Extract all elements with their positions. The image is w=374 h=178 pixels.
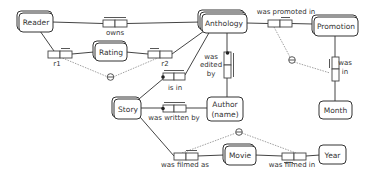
svg-text:by: by (207, 70, 216, 78)
svg-text:Month: Month (324, 106, 348, 115)
entity-rating[interactable]: Rating (93, 41, 127, 61)
svg-text:in: in (342, 68, 348, 76)
role-owns[interactable]: owns (103, 18, 127, 38)
svg-text:was: was (204, 53, 218, 61)
svg-text:Year: Year (324, 151, 342, 160)
svg-text:was written by: was written by (148, 114, 199, 122)
entity-author[interactable]: Author (name) (207, 97, 243, 121)
entity-month[interactable]: Month (319, 101, 352, 119)
svg-text:Rating: Rating (99, 48, 123, 57)
role-r1[interactable]: r1 (48, 49, 72, 69)
svg-text:Author: Author (212, 100, 238, 109)
connectors (40, 22, 335, 156)
svg-text:Promotion: Promotion (317, 22, 355, 31)
svg-text:was filmed as: was filmed as (161, 161, 209, 169)
svg-text:r1: r1 (53, 60, 60, 68)
role-is-in[interactable]: is in (161, 71, 185, 93)
entity-anthology[interactable]: Anthology (198, 10, 247, 33)
svg-text:(name): (name) (211, 110, 238, 119)
svg-text:r2: r2 (161, 60, 168, 68)
role-was-edited-by[interactable]: was edited by (200, 51, 234, 78)
svg-text:Reader: Reader (23, 18, 50, 27)
svg-text:owns: owns (106, 29, 124, 37)
svg-text:was: was (338, 59, 352, 67)
role-was-in[interactable]: was in (330, 57, 353, 81)
orm-diagram: Reader Rating Anthology Promotion Month … (0, 0, 374, 178)
entity-story[interactable]: Story (112, 97, 141, 119)
svg-text:Story: Story (118, 105, 138, 114)
role-was-written-by[interactable]: was written by (148, 103, 199, 123)
svg-text:was promoted in: was promoted in (257, 8, 316, 16)
role-r2[interactable]: r2 (148, 49, 172, 69)
role-was-filmed-as[interactable]: was filmed as (161, 151, 209, 170)
entity-reader[interactable]: Reader (17, 11, 53, 32)
svg-text:was filmed in: was filmed in (269, 161, 315, 169)
entity-year[interactable]: Year (319, 145, 346, 164)
svg-text:Movie: Movie (229, 151, 252, 160)
svg-text:Anthology: Anthology (205, 19, 244, 28)
svg-text:edited: edited (200, 61, 222, 69)
svg-text:is in: is in (168, 84, 182, 92)
entity-movie[interactable]: Movie (223, 144, 256, 165)
entity-promotion[interactable]: Promotion (312, 15, 358, 36)
